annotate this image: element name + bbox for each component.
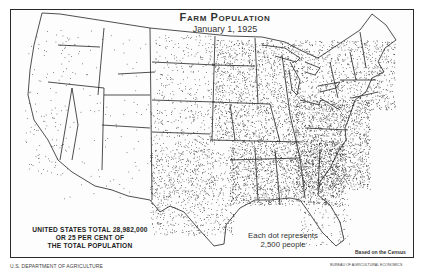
- map-subtitle: January 1, 1925: [150, 24, 300, 34]
- state-boundaries: [28, 13, 396, 246]
- total-note-line: THE TOTAL POPULATION: [20, 242, 160, 250]
- state-lines: [48, 28, 378, 205]
- dot-legend: Each dot represents 2,500 people: [238, 231, 328, 249]
- map-title: Farm Population: [150, 11, 300, 23]
- credit-department: U.S. DEPARTMENT OF AGRICULTURE: [10, 263, 103, 269]
- legend-line: Each dot represents: [238, 231, 328, 240]
- total-note-line: OR 25 PER CENT OF: [20, 234, 160, 242]
- great-lakes: [262, 45, 340, 95]
- total-note-line: UNITED STATES TOTAL 28,982,000: [20, 226, 160, 234]
- dot-layer: [25, 30, 395, 245]
- legend-line: 2,500 people: [238, 240, 328, 249]
- credit-bureau: BUREAU OF AGRICULTURAL ECONOMICS: [330, 263, 402, 267]
- source-note: Based on the Census: [355, 249, 406, 255]
- total-population-note: UNITED STATES TOTAL 28,982,000 OR 25 PER…: [20, 226, 160, 249]
